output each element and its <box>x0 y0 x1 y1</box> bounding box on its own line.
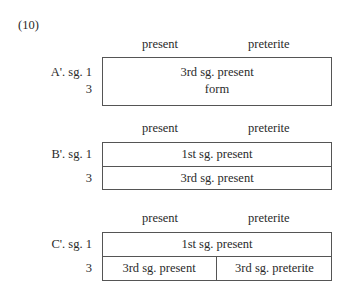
row-label-3: 3 <box>30 261 92 276</box>
row-divider <box>102 166 332 167</box>
column-header-present: present <box>142 121 178 136</box>
cell-sg3: 3rd sg. present <box>102 171 332 186</box>
row-label-sg1: B'. sg. 1 <box>30 147 92 162</box>
cell-text-line1: 3rd sg. present <box>102 65 332 80</box>
column-header-preterite: preterite <box>248 211 290 226</box>
cell-sg1: 1st sg. present <box>102 237 332 252</box>
row-label-3: 3 <box>30 171 92 186</box>
row-label-3: 3 <box>30 82 92 97</box>
column-header-preterite: preterite <box>248 121 290 136</box>
row-label-sg1: C'. sg. 1 <box>30 237 92 252</box>
cell-sg3-preterite: 3rd sg. preterite <box>217 261 332 276</box>
example-number: (10) <box>18 18 39 33</box>
column-header-present: present <box>142 211 178 226</box>
cell-sg3-present: 3rd sg. present <box>102 261 216 276</box>
cell-text-line2: form <box>102 82 332 97</box>
column-header-present: present <box>142 37 178 52</box>
row-divider <box>102 256 332 257</box>
cell-sg1: 1st sg. present <box>102 147 332 162</box>
column-header-preterite: preterite <box>248 37 290 52</box>
row-label-sg1: A'. sg. 1 <box>30 65 92 80</box>
